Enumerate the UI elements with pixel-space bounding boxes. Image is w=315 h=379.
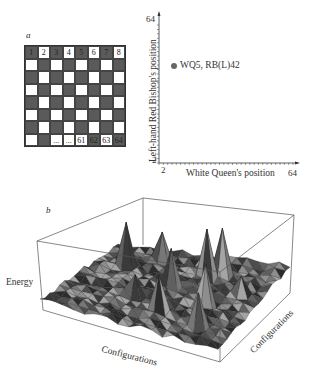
board-square — [50, 71, 63, 84]
board-square: 5 — [75, 46, 88, 59]
data-point-marker — [171, 63, 177, 69]
board-square — [38, 109, 51, 122]
board-square: 1 — [25, 46, 38, 59]
board-square — [113, 84, 126, 97]
board-square — [25, 134, 38, 147]
board-square — [75, 121, 88, 134]
board-square — [75, 84, 88, 97]
board-square — [50, 121, 63, 134]
board-square — [100, 59, 113, 72]
y-axis-title: Left-hand Red Bishop's position — [148, 39, 158, 162]
board-square: 61 — [75, 134, 88, 147]
board-square — [38, 121, 51, 134]
board-square: 3 — [50, 46, 63, 59]
board-square — [63, 121, 76, 134]
board-square — [38, 84, 51, 97]
board-square: 63 — [100, 134, 113, 147]
board-square — [38, 71, 51, 84]
board-square — [38, 96, 51, 109]
board-square — [113, 71, 126, 84]
board-square — [75, 109, 88, 122]
board-square — [25, 59, 38, 72]
board-square: 2 — [38, 46, 51, 59]
x-axis-title: White Queen's position — [186, 168, 275, 178]
board-square — [25, 96, 38, 109]
board-square — [25, 84, 38, 97]
chessboard-grid: 12345678......61626364 — [24, 45, 126, 147]
board-square — [113, 109, 126, 122]
board-square: 8 — [113, 46, 126, 59]
board-square — [25, 121, 38, 134]
data-point-label: WQ5, RB(L)42 — [180, 60, 240, 70]
board-square: 64 — [113, 134, 126, 147]
board-square — [50, 96, 63, 109]
board-square — [88, 96, 101, 109]
board-square — [88, 59, 101, 72]
board-square — [88, 121, 101, 134]
board-square — [100, 109, 113, 122]
board-square — [63, 84, 76, 97]
board-square — [75, 71, 88, 84]
board-square — [88, 84, 101, 97]
board-square — [38, 134, 51, 147]
board-square — [100, 96, 113, 109]
board-square — [100, 121, 113, 134]
board-square: 4 — [63, 46, 76, 59]
x-min-label: 2 — [161, 165, 166, 175]
board-square — [88, 109, 101, 122]
x-max-label: 64 — [288, 168, 297, 178]
board-square — [88, 71, 101, 84]
board-square: 6 — [88, 46, 101, 59]
board-square — [25, 71, 38, 84]
panel-a-label: a — [26, 30, 31, 40]
board-square: 7 — [100, 46, 113, 59]
board-square — [63, 96, 76, 109]
board-square — [100, 71, 113, 84]
board-square: ... — [63, 134, 76, 147]
z-axis-title: Energy — [6, 277, 33, 287]
board-square — [113, 121, 126, 134]
board-square — [50, 84, 63, 97]
board-square — [50, 109, 63, 122]
position-plot — [140, 5, 315, 185]
board-square — [50, 59, 63, 72]
board-square — [25, 109, 38, 122]
board-square — [75, 59, 88, 72]
board-square: ... — [50, 134, 63, 147]
board-square: 62 — [88, 134, 101, 147]
board-square — [63, 109, 76, 122]
board-square — [100, 84, 113, 97]
board-square — [63, 59, 76, 72]
board-square — [113, 96, 126, 109]
y-max-label: 64 — [146, 14, 155, 24]
board-square — [75, 96, 88, 109]
board-square — [113, 59, 126, 72]
energy-landscape-surface — [0, 185, 315, 379]
board-square — [38, 59, 51, 72]
board-square — [63, 71, 76, 84]
